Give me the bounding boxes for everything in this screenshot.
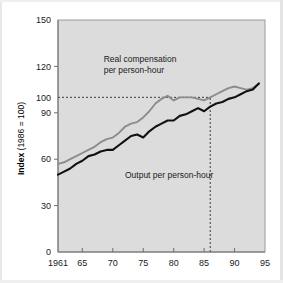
chart-figure: 0306090100120150 196165707580859095 Real… [0,0,283,283]
y-tick-label-90: 90 [41,108,51,118]
x-tick-label-80: 80 [169,258,179,268]
y-tick-label-60: 60 [41,154,51,164]
y-tick-label-150: 150 [36,15,51,25]
x-tick-label-90: 90 [230,258,240,268]
y-tick-label-0: 0 [46,247,51,257]
x-tick-label-70: 70 [108,258,118,268]
real-compensation-label-line2: per person-hour [104,65,165,75]
x-tick-label-1961: 1961 [48,258,68,268]
y-axis-title: Index (1986 = 100) [16,102,26,175]
x-tick-label-75: 75 [138,258,148,268]
x-tick-label-95: 95 [260,258,270,268]
line-chart: 0306090100120150 196165707580859095 Real… [0,0,283,283]
x-tick-label-65: 65 [77,258,87,268]
x-tick-label-85: 85 [199,258,209,268]
output-label: Output per person-hour [125,170,214,180]
y-axis-title-rest: (1986 = 100) [16,102,26,153]
y-tick-label-120: 120 [36,62,51,72]
y-axis-title-bold: Index [16,153,26,175]
y-tick-label-30: 30 [41,201,51,211]
y-axis: 0306090100120150 [36,15,58,257]
real-compensation-label-line1: Real compensation [104,54,177,64]
y-tick-label-100: 100 [36,93,51,103]
